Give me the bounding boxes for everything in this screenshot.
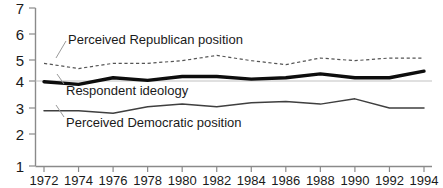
series-line-perceived-republican-position (44, 55, 424, 68)
y-tick-label-4: 4 (4, 74, 24, 89)
y-tick-label-6: 6 (4, 27, 24, 42)
y-tick-label-1: 1 (4, 159, 24, 174)
series-line-perceived-democratic-position (44, 99, 424, 113)
y-tick-label-7: 7 (4, 1, 24, 16)
x-tick-label-1994: 1994 (404, 174, 443, 187)
annotation-respondent-ideology: Respondent ideology (66, 84, 188, 97)
y-tick-label-5: 5 (4, 53, 24, 68)
y-tick-label-3: 3 (4, 101, 24, 116)
leader-line-republican (56, 41, 66, 58)
y-axis-ticks (29, 8, 36, 166)
annotation-perceived-republican-position: Perceived Republican position (68, 33, 243, 46)
annotation-leader-lines (56, 41, 66, 117)
annotation-perceived-democratic-position: Perceived Democratic position (66, 116, 242, 129)
y-tick-label-2: 2 (4, 127, 24, 142)
